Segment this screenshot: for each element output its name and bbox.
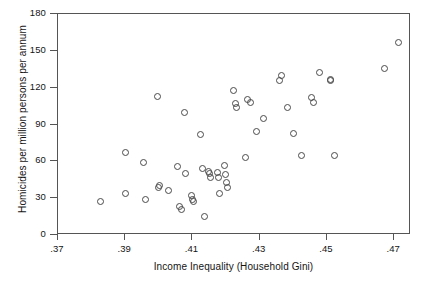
- x-axis-tick: [57, 234, 58, 240]
- data-point: [224, 184, 231, 191]
- data-point: [197, 131, 204, 138]
- data-point: [233, 104, 240, 111]
- data-point: [156, 182, 163, 189]
- data-point: [284, 104, 291, 111]
- data-point: [310, 99, 317, 106]
- data-point: [381, 65, 388, 72]
- x-axis-tick-label: .37: [37, 243, 77, 254]
- data-point: [247, 99, 254, 106]
- scatter-chart-figure: 0306090120150180 .37.39.41.43.45.47 Inco…: [0, 0, 422, 281]
- x-axis-tick-label: .41: [171, 243, 211, 254]
- data-point: [122, 149, 129, 156]
- data-point: [216, 190, 223, 197]
- x-axis-tick-label: .43: [239, 243, 279, 254]
- data-point: [140, 159, 147, 166]
- data-point: [201, 213, 208, 220]
- data-point: [97, 198, 104, 205]
- y-axis-title: Homicides per million persons per annum: [17, 8, 29, 230]
- x-axis-tick: [124, 234, 125, 240]
- x-axis-tick: [191, 234, 192, 240]
- data-point: [154, 93, 161, 100]
- data-point: [253, 128, 260, 135]
- x-axis-tick-label: .47: [373, 243, 413, 254]
- data-point: [331, 152, 338, 159]
- x-axis-title: Income Inequality (Household Gini): [57, 261, 410, 273]
- data-point: [122, 190, 129, 197]
- y-axis-tick: [50, 234, 57, 235]
- y-axis-tick-label: 0: [6, 229, 46, 239]
- data-point: [222, 171, 229, 178]
- data-point: [181, 109, 188, 116]
- y-axis-tick: [50, 87, 57, 88]
- data-point: [178, 206, 185, 213]
- data-point: [260, 115, 267, 122]
- data-point: [230, 87, 237, 94]
- data-point: [190, 198, 197, 205]
- data-point: [174, 163, 181, 170]
- y-axis-tick: [50, 197, 57, 198]
- data-point: [142, 196, 149, 203]
- x-axis-tick: [326, 234, 327, 240]
- data-point: [395, 39, 402, 46]
- data-points-layer: [58, 14, 409, 233]
- plot-area: [57, 13, 410, 234]
- y-axis-tick: [50, 50, 57, 51]
- x-axis-tick: [259, 234, 260, 240]
- data-point: [242, 154, 249, 161]
- y-axis-tick: [50, 124, 57, 125]
- data-point: [316, 69, 323, 76]
- x-axis-tick-label: .39: [104, 243, 144, 254]
- data-point: [165, 187, 172, 194]
- data-point: [327, 77, 334, 84]
- data-point: [221, 162, 228, 169]
- data-point: [207, 174, 214, 181]
- data-point: [290, 130, 297, 137]
- x-axis-tick: [393, 234, 394, 240]
- y-axis-tick: [50, 160, 57, 161]
- x-axis-tick-label: .45: [306, 243, 346, 254]
- y-axis-tick: [50, 13, 57, 14]
- data-point: [182, 170, 189, 177]
- data-point: [298, 152, 305, 159]
- data-point: [278, 72, 285, 79]
